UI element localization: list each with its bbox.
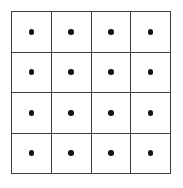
cell-dot bbox=[68, 150, 74, 156]
grid-cell bbox=[12, 134, 52, 175]
cell-dot bbox=[108, 69, 114, 75]
figure-root bbox=[0, 0, 183, 188]
grid-cell bbox=[92, 12, 132, 53]
grid-cell bbox=[131, 93, 171, 134]
cell-dot bbox=[68, 29, 74, 35]
cell-dot bbox=[148, 110, 154, 116]
grid-cell bbox=[131, 134, 171, 175]
cell-dot bbox=[108, 150, 114, 156]
grid-cell bbox=[131, 12, 171, 53]
grid-cell bbox=[52, 134, 92, 175]
grid-cell bbox=[131, 53, 171, 94]
cell-dot bbox=[29, 29, 35, 35]
cell-dot bbox=[148, 29, 154, 35]
cell-dot bbox=[148, 150, 154, 156]
grid-cell bbox=[52, 12, 92, 53]
grid-cell bbox=[12, 12, 52, 53]
dot-grid bbox=[11, 11, 171, 174]
cell-dot bbox=[68, 69, 74, 75]
grid-cell bbox=[92, 53, 132, 94]
grid-cell bbox=[52, 93, 92, 134]
cell-dot bbox=[29, 150, 35, 156]
cell-dot bbox=[108, 110, 114, 116]
grid-cell bbox=[12, 53, 52, 94]
cell-dot bbox=[68, 110, 74, 116]
cell-dot bbox=[29, 69, 35, 75]
cell-dot bbox=[29, 110, 35, 116]
grid-cell bbox=[52, 53, 92, 94]
cell-dot bbox=[148, 69, 154, 75]
grid-cell bbox=[92, 134, 132, 175]
cell-dot bbox=[108, 29, 114, 35]
grid-cell bbox=[12, 93, 52, 134]
grid-cell bbox=[92, 93, 132, 134]
